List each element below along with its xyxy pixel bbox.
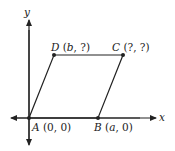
label-c: C (?, ?)	[112, 41, 150, 53]
parallelogram-abcd	[29, 55, 123, 118]
label-d: D (b, ?)	[50, 41, 90, 53]
point-a	[27, 116, 31, 120]
x-axis-label: x	[159, 111, 165, 123]
label-a: A (0, 0)	[31, 121, 71, 133]
label-b: B (a, 0)	[93, 121, 133, 133]
point-c	[121, 53, 125, 57]
y-axis-label: y	[23, 6, 31, 18]
point-b	[96, 116, 100, 120]
coordinate-diagram: y x D (b, ?) C (?, ?) A (0, 0) B (a, 0)	[0, 0, 175, 151]
point-d	[52, 53, 56, 57]
